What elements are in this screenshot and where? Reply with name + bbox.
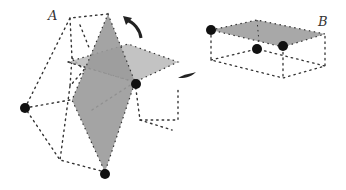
label-a: A [48, 8, 57, 23]
flip-arrow-icon [178, 72, 196, 78]
vertex-a-right [131, 79, 141, 89]
rotation-arrow-icon [126, 20, 141, 38]
vertical-diamond-a [72, 14, 135, 172]
vertex-b-front [278, 41, 288, 51]
label-b: B [318, 14, 328, 29]
diagram-canvas [0, 0, 346, 190]
vertex-a-bottom [100, 169, 110, 179]
vertex-b-mid [252, 44, 262, 54]
vertex-a-left [20, 103, 30, 113]
horizontal-plane-b [211, 20, 325, 47]
vertex-b-left [206, 25, 216, 35]
